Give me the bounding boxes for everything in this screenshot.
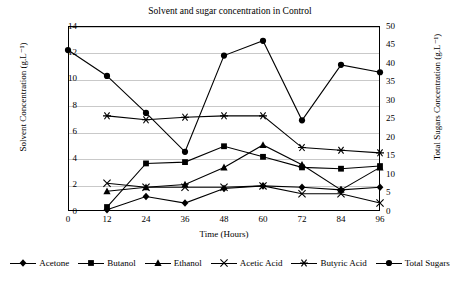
series-total-sugars	[65, 38, 383, 155]
y-tick-label: 14	[57, 22, 77, 31]
legend-label: Butyric Acid	[320, 258, 366, 268]
series-butyric-acid	[103, 112, 384, 156]
x-tick-label: 48	[212, 214, 236, 224]
x-tick-label: 96	[368, 214, 392, 224]
legend-item-butyric-acid[interactable]: Butyric Acid	[291, 258, 366, 268]
x-tick-label: 24	[134, 214, 158, 224]
chart-figure: Solvent and sugar concentration in Contr…	[0, 0, 460, 290]
legend-label: Butanol	[107, 258, 136, 268]
y-tick-label: 6	[57, 127, 77, 136]
legend-item-acetic-acid[interactable]: Acetic Acid	[211, 258, 283, 268]
y-tick-label: 2	[57, 180, 77, 189]
series-acetic-acid	[103, 180, 383, 207]
y-tick-label: 10	[57, 74, 77, 83]
y-tick-label: 4	[57, 154, 77, 163]
x-tick-label: 12	[95, 214, 119, 224]
y2-tick-label: 20	[386, 133, 410, 142]
legend-item-total-sugars[interactable]: Total Sugars	[376, 258, 450, 268]
chart-legend: AcetoneButanolEthanolAcetic AcidButyric …	[0, 258, 460, 268]
y2-tick-label: 15	[386, 151, 410, 160]
legend-item-acetone[interactable]: Acetone	[10, 258, 69, 268]
x-tick-label: 72	[290, 214, 314, 224]
y2-tick-label: 50	[386, 22, 410, 31]
square-icon	[78, 258, 104, 268]
x-tick-label: 60	[251, 214, 275, 224]
x-tick-label: 36	[173, 214, 197, 224]
legend-label: Total Sugars	[405, 258, 450, 268]
y2-tick-label: 35	[386, 77, 410, 86]
asterisk-icon	[291, 258, 317, 268]
legend-label: Acetic Acid	[240, 258, 283, 268]
diamond-icon	[10, 258, 36, 268]
circle-icon	[376, 258, 402, 268]
legend-item-ethanol[interactable]: Ethanol	[145, 258, 202, 268]
cross-icon	[211, 258, 237, 268]
x-tick-label: 84	[329, 214, 353, 224]
y2-tick-label: 5	[386, 188, 410, 197]
y-tick-label: 12	[57, 48, 77, 57]
y2-tick-label: 45	[386, 40, 410, 49]
legend-label: Acetone	[39, 258, 69, 268]
y2-tick-label: 30	[386, 96, 410, 105]
legend-label: Ethanol	[174, 258, 202, 268]
legend-item-butanol[interactable]: Butanol	[78, 258, 136, 268]
y-tick-label: 8	[57, 101, 77, 110]
y2-tick-label: 10	[386, 170, 410, 179]
y2-tick-label: 25	[386, 114, 410, 123]
triangle-icon	[145, 258, 171, 268]
y2-tick-label: 40	[386, 59, 410, 68]
x-tick-label: 0	[56, 214, 80, 224]
